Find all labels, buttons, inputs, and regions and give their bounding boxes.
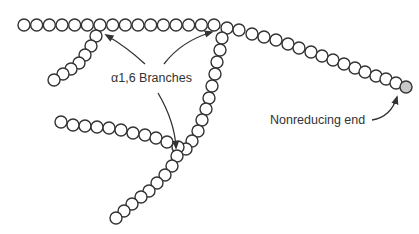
- glucose-unit: [282, 38, 294, 50]
- glucose-unit: [161, 136, 173, 148]
- branch-3: [55, 116, 184, 153]
- arrow-to-branch-1: [106, 35, 145, 64]
- arrow-to-nonreducing-end: [372, 97, 397, 120]
- branch-4: [110, 150, 183, 224]
- glucose-unit: [56, 19, 68, 31]
- glucose-unit: [170, 19, 182, 31]
- glucose-unit: [150, 132, 162, 144]
- glucose-unit: [79, 120, 91, 132]
- glucose-unit: [195, 19, 207, 31]
- glucose-unit: [327, 54, 339, 66]
- branches-label: α1,6 Branches: [111, 71, 192, 85]
- arrow-to-branch-2: [164, 32, 212, 64]
- diagram-svg: α1,6 Branches Nonreducing end: [0, 0, 419, 234]
- glucose-unit: [211, 56, 223, 68]
- glucose-unit: [107, 19, 119, 31]
- glucose-unit: [183, 19, 195, 31]
- main-chain-descending: [221, 22, 412, 93]
- glucose-unit: [69, 19, 81, 31]
- glucose-unit: [139, 129, 151, 141]
- glucose-unit: [18, 19, 30, 31]
- branch-1: [48, 30, 102, 86]
- glucose-unit: [359, 66, 371, 78]
- glucose-unit: [127, 127, 139, 139]
- glucose-unit: [208, 19, 220, 31]
- glucose-unit: [110, 212, 122, 224]
- glucose-unit: [196, 114, 208, 126]
- glucose-unit: [103, 122, 115, 134]
- nonreducing-end-unit: [400, 81, 412, 93]
- glucose-unit: [214, 44, 226, 56]
- glucose-unit: [316, 50, 328, 62]
- glycogen-diagram: α1,6 Branches Nonreducing end: [0, 0, 419, 234]
- glucose-unit: [48, 74, 60, 86]
- glucose-unit: [203, 92, 215, 104]
- glucose-unit: [206, 80, 218, 92]
- glucose-unit: [31, 19, 43, 31]
- glucose-unit: [338, 58, 350, 70]
- glucose-unit: [293, 42, 305, 54]
- glucose-unit: [55, 116, 67, 128]
- glucose-unit: [43, 19, 55, 31]
- glucose-unit: [305, 46, 317, 58]
- glucose-unit: [91, 121, 103, 133]
- main-chain: [18, 19, 220, 31]
- glucose-unit: [258, 31, 270, 43]
- glucose-unit: [115, 124, 127, 136]
- glucose-unit: [200, 103, 212, 115]
- glucose-unit: [216, 32, 228, 44]
- glucose-unit: [145, 19, 157, 31]
- glucose-unit: [233, 24, 245, 36]
- glucose-unit: [132, 19, 144, 31]
- glucose-unit: [81, 19, 93, 31]
- branch-2: [180, 32, 228, 155]
- glucose-unit: [270, 34, 282, 46]
- glucose-unit: [94, 19, 106, 31]
- glucose-unit: [246, 28, 258, 40]
- glucose-unit: [157, 19, 169, 31]
- nonreducing-end-label: Nonreducing end: [270, 113, 365, 127]
- glucose-unit: [119, 19, 131, 31]
- glucose-unit: [67, 119, 79, 131]
- glucose-unit: [209, 68, 221, 80]
